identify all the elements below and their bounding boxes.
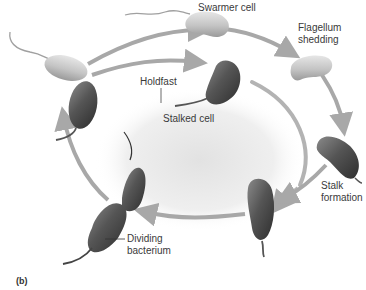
label-dividing-line1: Dividing bbox=[127, 233, 163, 245]
stalked-cell-bottom bbox=[247, 179, 274, 240]
swarmer-cell-top bbox=[185, 12, 229, 37]
label-flagellum-line2: shedding bbox=[298, 34, 339, 46]
stalk-bottom bbox=[262, 241, 264, 257]
label-swarmer-cell: Swarmer cell bbox=[198, 2, 256, 14]
arrow-division-to-stalked bbox=[92, 61, 196, 75]
stalk-formation-cell bbox=[317, 136, 359, 178]
label-holdfast: Holdfast bbox=[140, 76, 177, 88]
label-stalked-cell: Stalked cell bbox=[163, 113, 214, 125]
shedding-cell bbox=[291, 56, 333, 81]
flagellum-left bbox=[10, 32, 52, 60]
label-stalk-line2: formation bbox=[321, 192, 363, 204]
arrow-division-to-swarmer bbox=[88, 30, 200, 64]
flagellum-top bbox=[125, 11, 190, 15]
dividing-bacterium-lower bbox=[88, 203, 127, 252]
dividing-bacterium-stalk bbox=[63, 248, 92, 264]
label-dividing-line2: bacterium bbox=[127, 245, 171, 257]
panel-label: (b) bbox=[16, 276, 28, 286]
arrow-shedding-to-stalk-formation bbox=[322, 75, 343, 125]
label-flagellum-line1: Flagellum bbox=[298, 22, 341, 34]
stalked-cell-left bbox=[65, 79, 101, 131]
swarmer-cell-left bbox=[42, 51, 91, 86]
label-stalk-line1: Stalk bbox=[321, 180, 343, 192]
stalk-formation-tip bbox=[355, 178, 362, 183]
